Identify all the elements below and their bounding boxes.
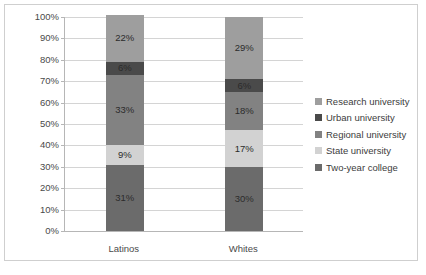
gridline [65,210,303,211]
chart-container: 0%10%20%30%40%50%60%70%80%90%100% 22%6%3… [4,4,418,261]
legend-item-label: Regional university [326,129,406,140]
legend-item-label: Two-year college [326,162,398,173]
y-axis-tick-label: 0% [45,226,59,236]
bar-segment-value-label: 31% [115,193,134,203]
y-axis-tick-mark [61,145,65,146]
bar-segment[interactable]: 18% [225,92,263,131]
legend-item-label: Research university [326,96,409,107]
x-axis-category-label: Whites [203,243,283,254]
bar-segment-value-label: 18% [235,106,254,116]
y-axis-tick-mark [61,103,65,104]
stacked-bar[interactable]: 22%6%33%9%31% [106,15,144,231]
y-axis-tick-mark [61,38,65,39]
legend-color-swatch [315,131,322,138]
y-axis-tick-label: 60% [40,98,59,108]
plot-area: 22%6%33%9%31%29%6%18%17%30% [64,18,303,232]
y-axis-tick-mark [61,60,65,61]
y-axis-tick-mark [61,210,65,211]
bar-segment-value-label: 29% [235,43,254,53]
legend-color-swatch [315,164,322,171]
y-axis-tick-mark [61,188,65,189]
gridline [65,103,303,104]
y-axis-labels: 0%10%20%30%40%50%60%70%80%90%100% [5,18,59,232]
legend-color-swatch [315,147,322,154]
y-axis-tick-mark [61,124,65,125]
y-axis-tick-label: 10% [40,205,59,215]
y-axis-tick-label: 90% [40,33,59,43]
bar-segment-value-label: 30% [235,194,254,204]
bar-segment-value-label: 22% [115,33,134,43]
bar-segment[interactable]: 17% [225,130,263,166]
legend-item[interactable]: State university [315,143,417,160]
legend-item-label: Urban university [326,112,395,123]
bar-segment[interactable]: 9% [106,145,144,164]
y-axis-tick-label: 80% [40,55,59,65]
legend-color-swatch [315,114,322,121]
legend-color-swatch [315,98,322,105]
y-axis-tick-label: 40% [40,140,59,150]
bar-segment[interactable]: 6% [225,79,263,92]
bar-segment[interactable]: 33% [106,75,144,146]
bar-segment[interactable]: 29% [225,17,263,79]
gridline [65,167,303,168]
chart-legend: Research universityUrban universityRegio… [315,93,417,176]
gridline [65,81,303,82]
legend-item[interactable]: Regional university [315,126,417,143]
stacked-bar[interactable]: 29%6%18%17%30% [225,17,263,231]
y-axis-tick-mark [61,167,65,168]
y-axis-tick-label: 20% [40,183,59,193]
y-axis-tick-label: 30% [40,162,59,172]
y-axis-tick-label: 100% [35,12,59,22]
gridline [65,145,303,146]
bar-segment-value-label: 17% [235,144,254,154]
gridline [65,124,303,125]
gridline [65,38,303,39]
gridline [65,60,303,61]
bar-segment[interactable]: 31% [106,165,144,231]
y-axis-tick-mark [61,231,65,232]
x-axis-category-label: Latinos [84,243,164,254]
bar-segment[interactable]: 30% [225,167,263,231]
legend-item[interactable]: Research university [315,93,417,110]
y-axis-tick-mark [61,81,65,82]
legend-item-label: State university [326,145,391,156]
bar-segment-value-label: 6% [237,81,251,91]
bar-segment[interactable]: 6% [106,62,144,75]
gridline [65,17,303,18]
bar-segment-value-label: 6% [118,63,132,73]
bar-segment-value-label: 33% [115,105,134,115]
legend-item[interactable]: Two-year college [315,159,417,176]
y-axis-tick-label: 70% [40,76,59,86]
y-axis-tick-label: 50% [40,119,59,129]
gridline [65,188,303,189]
bar-segment-value-label: 9% [118,150,132,160]
y-axis-tick-mark [61,17,65,18]
legend-item[interactable]: Urban university [315,110,417,127]
bar-segment[interactable]: 22% [106,15,144,62]
